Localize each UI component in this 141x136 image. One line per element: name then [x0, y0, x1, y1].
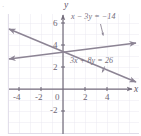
equation-label-line2: 3x + 8y = 26: [70, 57, 113, 65]
x-axis-label: x: [134, 85, 138, 95]
x-tick-4: 4: [105, 93, 110, 102]
coordinate-graph-figure: ·: [0, 0, 141, 136]
equation-label-line1: x − 3y = −14: [71, 13, 116, 21]
x-tick-2: 2: [83, 93, 88, 102]
grid-area: [8, 14, 139, 134]
y-tick-minus-2: -2: [50, 106, 58, 115]
y-tick-2: 2: [53, 63, 58, 72]
x-tick-minus-4: -4: [13, 93, 21, 102]
y-tick-6: 6: [53, 19, 58, 28]
y-tick-4: 4: [53, 41, 58, 50]
y-axis-label: y: [64, 1, 68, 11]
x-tick-minus-2: -2: [35, 93, 43, 102]
x-tick-0: 0: [55, 93, 60, 102]
